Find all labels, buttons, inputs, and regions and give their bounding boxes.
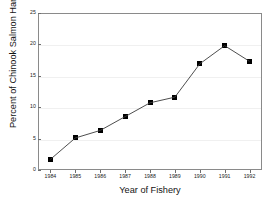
x-tick-label: 1992 [235,174,265,179]
data-line [38,13,262,170]
y-tick-label: 0 [22,167,36,172]
y-tick-mark [38,107,41,108]
y-tick-mark [38,13,41,14]
y-tick-label: 25 [22,10,36,15]
chart-figure: Percent of Chinook Salmon Harvest 051015… [0,0,279,203]
y-axis-tick-labels: 0510152025 [20,13,36,170]
y-axis-title: Percent of Chinook Salmon Harvest [8,0,18,130]
x-axis-title: Year of Fishery [38,185,262,195]
y-tick-label: 15 [22,73,36,78]
y-tick-mark [38,139,41,140]
y-tick-label: 20 [22,42,36,47]
y-tick-mark [38,170,41,171]
y-tick-mark [38,44,41,45]
y-tick-label: 10 [22,105,36,110]
y-tick-mark [38,76,41,77]
y-tick-label: 5 [22,136,36,141]
